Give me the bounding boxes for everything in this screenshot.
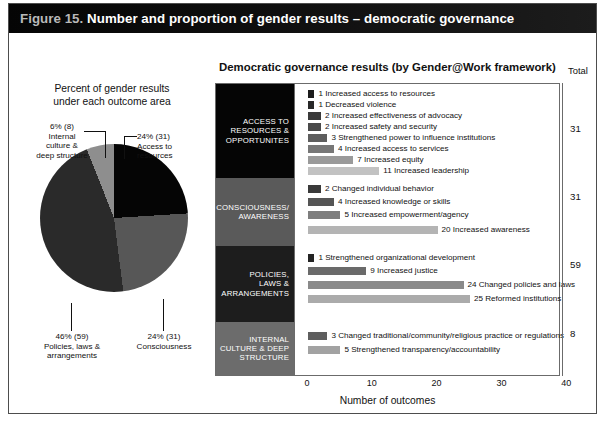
pie-title-line-1: Percent of gender results: [9, 82, 215, 95]
pie-label-access-to-resources: 24% (31) Access to resources: [137, 132, 211, 161]
bar-segment: [308, 156, 353, 164]
category-block-internal: INTERNAL CULTURE & DEEP STRUCTURE: [216, 322, 294, 375]
bar-value-label: 9 Increased justice: [366, 267, 438, 275]
bar-value-label: 4 Increased access to services: [334, 145, 449, 153]
totals-divider: [562, 83, 563, 376]
bar-segment: [308, 167, 379, 175]
bar-chart-title: Democratic governance results (by Gender…: [219, 61, 556, 73]
bar-row: 3 Strengthened power to influence instit…: [308, 134, 495, 142]
pie-label-internal-culture: 6% (8) Internal culture & deep structure: [19, 122, 105, 160]
bar-value-label: 3 Strengthened power to influence instit…: [327, 134, 495, 142]
page-title: Figure 15. Number and proportion of gend…: [9, 11, 514, 26]
totals-header: Total: [568, 65, 588, 76]
bar-row: 2 Increased safety and security: [308, 123, 437, 131]
bar-segment: [308, 226, 438, 234]
pie-label-policies-laws: 46% (59) Policies, laws & arrangements: [21, 332, 123, 361]
bar-value-label: 25 Reformed institutions: [470, 295, 561, 303]
leader-line-policies: [71, 303, 72, 331]
bar-value-label: 2 Increased safety and security: [321, 123, 437, 131]
bar-value-label: 1 Increased access to resources: [314, 90, 435, 98]
pie-title-line-2: under each outcome area: [9, 95, 215, 108]
bar-row: 4 Increased knowledge or skills: [308, 198, 450, 206]
bar-segment: [308, 134, 327, 142]
bar-value-label: 4 Increased knowledge or skills: [334, 198, 450, 206]
category-label-policies: POLICIES, LAWS & ARRANGEMENTS: [221, 270, 289, 298]
bar-row: 1 Decreased violence: [308, 101, 396, 109]
bar-value-label: 7 Increased equity: [353, 156, 423, 164]
figure-frame: Figure 15. Number and proportion of gend…: [8, 3, 597, 414]
bar-value-label: 20 Increased awareness: [438, 226, 530, 234]
figure-title-bar: Figure 15. Number and proportion of gend…: [9, 4, 596, 33]
bar-row: 5 Increased empowerment/agency: [308, 211, 469, 219]
x-tick-40: 40: [561, 378, 571, 388]
bar-segment: [308, 198, 334, 206]
bar-segment: [308, 123, 321, 131]
x-tick-0: 0: [304, 378, 309, 388]
figure-number: Figure 15.: [20, 11, 83, 26]
bar-value-label: 3 Changed traditional/community/religiou…: [327, 332, 564, 340]
bar-row: 1 Increased access to resources: [308, 90, 435, 98]
x-tick-30: 30: [496, 378, 506, 388]
figure-title-text: Number and proportion of gender results …: [87, 11, 514, 26]
bar-segment: [308, 281, 464, 289]
bar-row: 7 Increased equity: [308, 156, 424, 164]
leader-line-access-horizontal: [124, 136, 137, 137]
bars-container: 1 Increased access to resources1 Decreas…: [295, 84, 559, 375]
pie-chart-graphic: [40, 144, 188, 292]
bar-value-label: 5 Increased empowerment/agency: [340, 211, 468, 219]
total-value-access: 31: [570, 123, 581, 134]
bar-value-label: 24 Changed policies and laws: [464, 281, 576, 289]
bar-row: 20 Increased awareness: [308, 226, 530, 234]
leader-line-internal-vertical: [105, 131, 106, 158]
bar-row: 5 Strengthened transparency/accountabili…: [308, 346, 500, 354]
category-label-access: ACCESS TO RESOURCES & OPPORTUNITES: [226, 117, 289, 145]
bar-chart-panel: Democratic governance results (by Gender…: [215, 33, 598, 414]
bar-row: 24 Changed policies and laws: [308, 281, 575, 289]
bar-value-label: 2 Changed individual behavior: [321, 185, 434, 193]
bar-segment: [308, 112, 321, 120]
x-axis-ticks: 01020304050: [215, 378, 560, 392]
category-block-consciousness: CONSCIOUSNESS/ AWARENESS: [216, 178, 294, 246]
bar-row: 25 Reformed institutions: [308, 295, 561, 303]
bar-row: 2 Increased effectiveness of advocacy: [308, 112, 462, 120]
leader-line-access-vertical: [124, 136, 125, 159]
pie-chart-panel: Percent of gender results under each out…: [9, 33, 215, 414]
bar-value-label: 11 Increased leadership: [379, 167, 469, 175]
bar-value-label: 1 Decreased violence: [314, 101, 396, 109]
total-value-internal: 8: [570, 328, 575, 339]
bar-row: 2 Changed individual behavior: [308, 185, 434, 193]
total-value-consciousness: 31: [570, 191, 581, 202]
category-block-column: ACCESS TO RESOURCES & OPPORTUNITESCONSCI…: [216, 84, 294, 375]
bar-row: 3 Changed traditional/community/religiou…: [308, 332, 564, 340]
pie-chart-title: Percent of gender results under each out…: [9, 82, 215, 108]
bar-row: 1 Strengthened organizational developmen…: [308, 254, 475, 262]
pie-slices: [40, 144, 188, 292]
bar-segment: [308, 267, 366, 275]
category-block-policies: POLICIES, LAWS & ARRANGEMENTS: [216, 246, 294, 322]
category-label-internal: INTERNAL CULTURE & DEEP STRUCTURE: [220, 335, 289, 363]
bar-segment: [308, 185, 321, 193]
category-block-access: ACCESS TO RESOURCES & OPPORTUNITES: [216, 84, 294, 178]
total-value-policies: 59: [570, 259, 581, 270]
bar-segment: [308, 295, 470, 303]
x-tick-10: 10: [367, 378, 377, 388]
bar-segment: [308, 211, 340, 219]
bar-value-label: 1 Strengthened organizational developmen…: [314, 254, 475, 262]
bar-segment: [308, 145, 334, 153]
bar-row: 11 Increased leadership: [308, 167, 469, 175]
x-axis-title: Number of outcomes: [215, 395, 560, 406]
bar-segment: [308, 332, 327, 340]
pie-label-consciousness: 24% (31) Consciousness: [127, 332, 201, 351]
bar-value-label: 5 Strengthened transparency/accountabili…: [340, 346, 500, 354]
bar-segment: [308, 346, 340, 354]
bar-row: 4 Increased access to services: [308, 145, 449, 153]
bar-chart-plot-area: ACCESS TO RESOURCES & OPPORTUNITESCONSCI…: [215, 83, 560, 376]
bar-value-label: 2 Increased effectiveness of advocacy: [321, 112, 462, 120]
category-label-consciousness: CONSCIOUSNESS/ AWARENESS: [216, 203, 289, 222]
bar-row: 9 Increased justice: [308, 267, 438, 275]
totals-column: Total 31 31 59 8: [562, 83, 598, 376]
x-tick-20: 20: [432, 378, 442, 388]
leader-line-consciousness: [163, 299, 164, 331]
